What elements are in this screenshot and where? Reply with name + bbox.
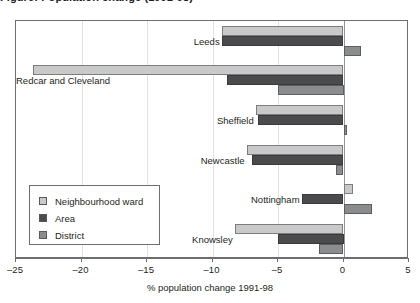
legend-item-label: Neighbourhood ward [55, 196, 143, 207]
bar [252, 155, 344, 165]
bar [319, 244, 344, 254]
bar [344, 125, 348, 135]
category-label: Redcar and Cleveland [16, 75, 31, 86]
x-axis-tick-label: –5 [272, 264, 283, 275]
chart-title: Figure: Population change (1991-98) [0, 0, 420, 4]
legend-item-label: Area [55, 213, 75, 224]
x-axis-tick [212, 258, 213, 262]
bar [227, 75, 344, 85]
bar-group: Newcastle [16, 140, 407, 180]
bar [258, 115, 343, 125]
x-axis-tick [343, 258, 344, 262]
x-axis-tick-label: 5 [405, 264, 410, 275]
bar [344, 184, 353, 194]
legend-item[interactable]: District [39, 227, 159, 243]
legend-swatch-icon [39, 214, 47, 222]
legend-swatch-icon [39, 197, 47, 205]
legend-item[interactable]: Neighbourhood ward [39, 193, 159, 209]
bar [302, 194, 344, 204]
bar [235, 224, 344, 234]
x-axis-title: % population change 1991-98 [0, 282, 420, 293]
chart-legend: Neighbourhood wardAreaDistrict [29, 185, 160, 245]
bar-group: Sheffield [16, 100, 407, 140]
category-label: Leeds [16, 35, 220, 46]
bar [344, 46, 361, 56]
bar [222, 26, 344, 36]
legend-item[interactable]: Area [39, 210, 159, 226]
chart-title-clipped: Figure: Population change (1991-98) [0, 0, 420, 5]
bar [222, 36, 344, 46]
bar [33, 65, 343, 75]
bar [256, 105, 344, 115]
x-axis-tick-label: 0 [340, 264, 345, 275]
legend-swatch-icon [39, 231, 47, 239]
x-axis-tick [81, 258, 82, 262]
category-label: Newcastle [16, 154, 245, 165]
bar [247, 145, 344, 155]
bar-group: Redcar and Cleveland [16, 61, 407, 101]
bar [278, 85, 344, 95]
x-axis-tick [408, 258, 409, 262]
x-axis-tick [15, 258, 16, 262]
x-axis-tick [277, 258, 278, 262]
x-axis-tick-label: –10 [204, 264, 220, 275]
legend-item-label: District [55, 230, 84, 241]
x-axis-tick-label: –25 [7, 264, 23, 275]
bar-group: Leeds [16, 21, 407, 61]
chart-figure: Figure: Population change (1991-98) Leed… [0, 0, 420, 303]
x-axis-tick [146, 258, 147, 262]
bar [344, 204, 373, 214]
x-axis-tick-label: –20 [73, 264, 89, 275]
category-label: Sheffield [16, 115, 254, 126]
bar [278, 234, 344, 244]
bar [336, 165, 344, 175]
x-axis-tick-label: –15 [138, 264, 154, 275]
